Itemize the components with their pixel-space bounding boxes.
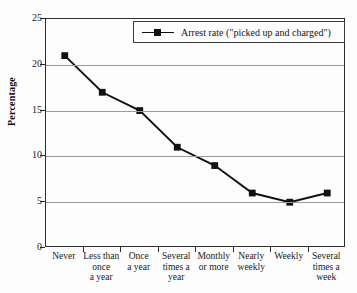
series-arrest-rate (46, 19, 346, 248)
x-tick-label: Less thanoncea year (83, 251, 121, 283)
gridline (46, 156, 344, 157)
data-point-marker (211, 162, 218, 169)
x-tick-label: Severaltimes aweek (308, 251, 346, 283)
y-axis-title: Percentage (6, 57, 17, 147)
chart-legend: Arrest rate ("picked up and charged") (133, 21, 345, 43)
y-tick-label: 25 (16, 13, 42, 23)
y-tick-label: 5 (16, 196, 42, 206)
data-point-marker (249, 190, 256, 197)
gridline (46, 202, 344, 203)
gridline (46, 111, 344, 112)
y-tick-label: 0 (16, 242, 42, 252)
x-tick-label: Nearlyweekly (233, 251, 271, 272)
gridline (46, 65, 344, 66)
x-tick-label: Monthlyor more (195, 251, 233, 272)
data-point-marker (324, 190, 331, 197)
x-tick-label: Severaltimes ayear (158, 251, 196, 283)
data-point-marker (99, 89, 106, 96)
legend-marker-icon (142, 27, 174, 37)
x-tick-label: Never (45, 251, 83, 262)
x-tick-label: Oncea year (120, 251, 158, 272)
y-tick-label: 10 (16, 150, 42, 160)
chart-figure: Percentage 0510152025 NeverLess thanonce… (0, 0, 357, 293)
data-point-marker (174, 144, 181, 151)
data-point-marker (61, 52, 68, 59)
x-tick-label: Weekly (270, 251, 308, 262)
y-tick-label: 15 (16, 105, 42, 115)
legend-label: Arrest rate ("picked up and charged") (181, 27, 331, 38)
y-tick-label: 20 (16, 59, 42, 69)
plot-area (45, 18, 345, 247)
